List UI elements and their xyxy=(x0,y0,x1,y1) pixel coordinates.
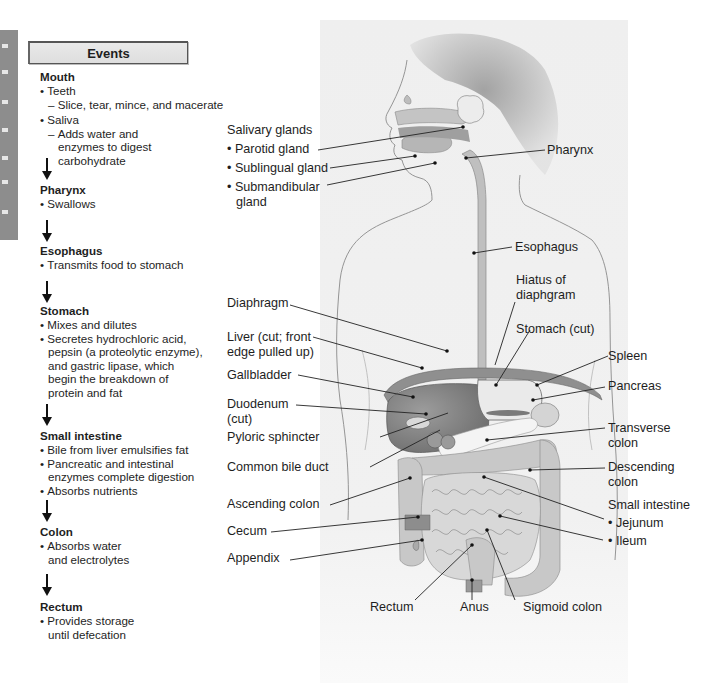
label-duodenum-2: (cut) xyxy=(227,412,252,427)
stage-item: Pancreatic and intestinal enzymes comple… xyxy=(40,457,200,484)
stage-title: Pharynx xyxy=(40,183,240,197)
label-descending-colon-2: colon xyxy=(608,475,638,490)
arrow-down-icon xyxy=(41,158,53,180)
stage-esophagus: Esophagus Transmits food to stomach xyxy=(40,244,240,272)
label-parotid-gland: Parotid gland xyxy=(227,142,309,157)
stage-pharynx: Pharynx Swallows xyxy=(40,183,240,211)
arrow-down-icon xyxy=(41,404,53,426)
stage-item: Teeth xyxy=(40,84,240,98)
stage-item: Swallows xyxy=(40,197,240,211)
parotid-gland xyxy=(457,96,484,124)
label-small-intestine: Small intestine xyxy=(608,498,690,513)
stage-stomach: Stomach Mixes and dilutes Secretes hydro… xyxy=(40,304,205,400)
stage-item: Absorbs water and electrolytes xyxy=(40,539,135,566)
stage-title: Mouth xyxy=(40,70,240,84)
arrow-down-icon xyxy=(41,220,53,242)
label-rectum: Rectum xyxy=(370,600,413,615)
label-spleen: Spleen xyxy=(608,349,647,364)
label-esophagus: Esophagus xyxy=(515,240,578,255)
arrow-down-icon xyxy=(41,574,53,596)
label-liver: Liver (cut; front xyxy=(227,330,311,345)
stage-title: Esophagus xyxy=(40,244,240,258)
events-title: Events xyxy=(87,46,130,61)
label-ascending-colon: Ascending colon xyxy=(227,497,319,512)
duodenum xyxy=(427,432,443,448)
stage-title: Small intestine xyxy=(40,429,200,443)
label-submandibular-gland: Submandibular xyxy=(227,180,320,195)
label-transverse-colon: Transverse xyxy=(608,421,671,436)
label-ileum: Ileum xyxy=(608,534,647,549)
label-hiatus: Hiatus of xyxy=(516,273,566,288)
arrow-down-icon xyxy=(41,500,53,522)
stage-item: Secretes hydrochloric acid, pepsin (a pr… xyxy=(40,332,205,400)
stage-small-intestine: Small intestine Bile from liver emulsifi… xyxy=(40,429,200,497)
label-jejunum: Jejunum xyxy=(608,516,664,531)
anus xyxy=(466,580,482,592)
stage-title: Stomach xyxy=(40,304,205,318)
label-liver-2: edge pulled up) xyxy=(227,345,314,360)
label-cecum: Cecum xyxy=(227,524,267,539)
stage-detail: Adds water and enzymes to digest carbohy… xyxy=(48,127,180,168)
label-diaphragm: Diaphragm xyxy=(227,296,289,311)
events-header: Events xyxy=(28,41,188,64)
label-sublingual-gland: Sublingual gland xyxy=(227,161,328,176)
stage-mouth: Mouth Teeth Slice, tear, mince, and mace… xyxy=(40,70,240,168)
label-submandibular-gland-2: gland xyxy=(236,195,267,210)
stage-item: Saliva xyxy=(40,113,240,127)
label-appendix: Appendix xyxy=(227,551,280,566)
label-duodenum: Duodenum xyxy=(227,397,289,412)
label-descending-colon: Descending xyxy=(608,460,675,475)
label-salivary-glands: Salivary glands xyxy=(227,123,312,138)
label-pyloric-sphincter: Pyloric sphincter xyxy=(227,430,319,445)
stage-item: Transmits food to stomach xyxy=(40,258,240,272)
label-stomach: Stomach (cut) xyxy=(516,322,594,337)
label-transverse-colon-2: colon xyxy=(608,436,638,451)
stage-colon: Colon Absorbs water and electrolytes xyxy=(40,525,135,566)
stage-title: Rectum xyxy=(40,600,140,614)
stage-rectum: Rectum Provides storage until defecation xyxy=(40,600,140,641)
label-pharynx: Pharynx xyxy=(547,143,593,158)
stage-item: Absorbs nutrients xyxy=(40,484,200,498)
label-gallbladder: Gallbladder xyxy=(227,368,291,383)
arrow-down-icon xyxy=(41,281,53,303)
label-pancreas: Pancreas xyxy=(608,379,661,394)
label-common-bile-duct: Common bile duct xyxy=(227,460,329,475)
stage-detail: Slice, tear, mince, and macerate xyxy=(48,98,240,112)
label-hiatus-2: diaphgram xyxy=(516,288,576,303)
stage-item: Provides storage until defecation xyxy=(40,614,140,641)
gallbladder xyxy=(406,417,430,429)
ascending-colon xyxy=(398,458,424,566)
label-sigmoid-colon: Sigmoid colon xyxy=(523,600,602,615)
stage-title: Colon xyxy=(40,525,135,539)
stage-item: Bile from liver emulsifies fat xyxy=(40,443,200,457)
label-anus: Anus xyxy=(460,600,489,615)
stage-item: Mixes and dilutes xyxy=(40,318,205,332)
nasal-cavity xyxy=(395,108,468,125)
